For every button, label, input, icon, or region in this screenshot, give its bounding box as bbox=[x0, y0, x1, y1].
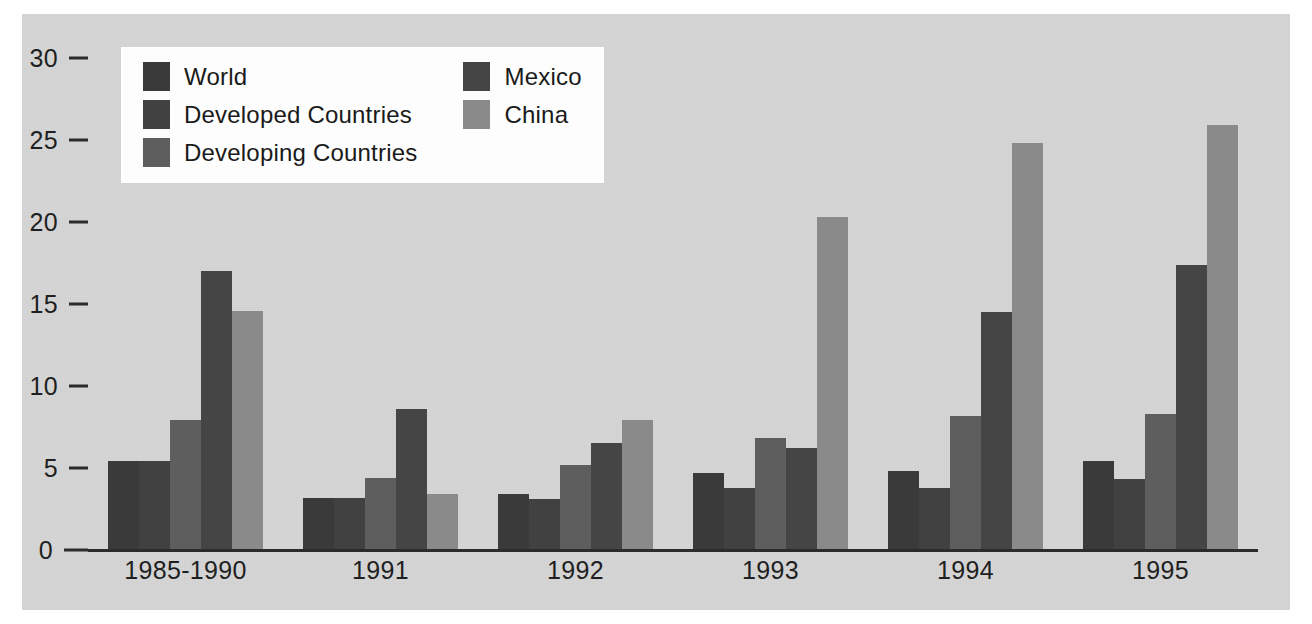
legend-item[interactable]: Mexico bbox=[463, 62, 581, 91]
legend-item[interactable]: Developed Countries bbox=[143, 100, 417, 129]
bar-group bbox=[673, 58, 868, 550]
bar-group-bars bbox=[1083, 58, 1238, 550]
legend-column: WorldDeveloped CountriesDeveloping Count… bbox=[143, 62, 417, 167]
bar[interactable] bbox=[427, 494, 458, 550]
bar-group bbox=[1063, 58, 1258, 550]
y-axis-tick-mark bbox=[69, 139, 88, 142]
legend-item[interactable]: China bbox=[463, 100, 581, 129]
y-axis-tick: 30 bbox=[16, 44, 88, 73]
bar[interactable] bbox=[1083, 461, 1114, 550]
bar[interactable] bbox=[693, 473, 724, 550]
y-axis-tick-mark bbox=[69, 57, 88, 60]
bar[interactable] bbox=[108, 461, 139, 550]
x-axis-category-label: 1993 bbox=[673, 556, 868, 585]
bar[interactable] bbox=[560, 465, 591, 550]
legend-swatch-icon bbox=[463, 62, 490, 91]
bar[interactable] bbox=[1176, 265, 1207, 550]
legend-label: Developing Countries bbox=[184, 139, 417, 167]
legend-item[interactable]: Developing Countries bbox=[143, 138, 417, 167]
x-axis-category-label: 1985-1990 bbox=[88, 556, 283, 585]
bar[interactable] bbox=[232, 311, 263, 550]
legend-swatch-icon bbox=[463, 100, 490, 129]
bar[interactable] bbox=[622, 420, 653, 550]
bar[interactable] bbox=[1145, 414, 1176, 550]
bar[interactable] bbox=[591, 443, 622, 550]
x-axis-category-label: 1992 bbox=[478, 556, 673, 585]
legend-label: China bbox=[504, 101, 568, 129]
legend-column: MexicoChina bbox=[463, 62, 581, 167]
bar[interactable] bbox=[170, 420, 201, 550]
legend-swatch-icon bbox=[143, 100, 170, 129]
y-axis-tick-mark bbox=[69, 467, 88, 470]
x-axis-line bbox=[88, 549, 1258, 552]
y-axis-tick: 20 bbox=[16, 208, 88, 237]
bar[interactable] bbox=[786, 448, 817, 550]
y-axis-tick-mark bbox=[69, 303, 88, 306]
y-axis-tick: 10 bbox=[16, 372, 88, 401]
legend-swatch-icon bbox=[143, 138, 170, 167]
x-axis-category-label: 1994 bbox=[868, 556, 1063, 585]
legend-item[interactable]: World bbox=[143, 62, 417, 91]
bar[interactable] bbox=[919, 488, 950, 550]
x-axis-labels: 1985-199019911992199319941995 bbox=[88, 556, 1258, 585]
legend-swatch-icon bbox=[143, 62, 170, 91]
x-axis-category-label: 1995 bbox=[1063, 556, 1258, 585]
y-axis-tick: 15 bbox=[16, 290, 88, 319]
bar[interactable] bbox=[529, 499, 560, 550]
bar-group-bars bbox=[888, 58, 1043, 550]
bar[interactable] bbox=[755, 438, 786, 550]
y-axis-tick-label: 0 bbox=[11, 536, 53, 565]
bar[interactable] bbox=[1012, 143, 1043, 550]
chart-figure: 051015202530 1985-1990199119921993199419… bbox=[0, 0, 1312, 624]
bar[interactable] bbox=[1114, 479, 1145, 550]
legend-label: Developed Countries bbox=[184, 101, 412, 129]
y-axis-tick-label: 5 bbox=[16, 454, 58, 483]
bar-group-bars bbox=[693, 58, 848, 550]
y-axis-tick-label: 30 bbox=[16, 44, 58, 73]
y-axis-tick-label: 10 bbox=[16, 372, 58, 401]
bar[interactable] bbox=[981, 312, 1012, 550]
y-axis-tick-mark bbox=[69, 221, 88, 224]
bar[interactable] bbox=[950, 416, 981, 550]
bar[interactable] bbox=[365, 478, 396, 550]
y-axis-tick-label: 15 bbox=[16, 290, 58, 319]
bar[interactable] bbox=[396, 409, 427, 550]
y-axis-tick-mark bbox=[69, 385, 88, 388]
y-axis-tick-label: 20 bbox=[16, 208, 58, 237]
bar[interactable] bbox=[817, 217, 848, 550]
bar[interactable] bbox=[1207, 125, 1238, 550]
bar[interactable] bbox=[498, 494, 529, 550]
y-axis-tick: 5 bbox=[16, 454, 88, 483]
y-axis-tick-mark bbox=[64, 549, 88, 552]
legend-label: World bbox=[184, 63, 247, 91]
y-axis-tick: 25 bbox=[16, 126, 88, 155]
bar[interactable] bbox=[334, 498, 365, 550]
bar[interactable] bbox=[201, 271, 232, 550]
bar[interactable] bbox=[139, 461, 170, 550]
legend-label: Mexico bbox=[504, 63, 581, 91]
chart-legend: WorldDeveloped CountriesDeveloping Count… bbox=[121, 47, 604, 183]
bar-group bbox=[868, 58, 1063, 550]
bar[interactable] bbox=[724, 488, 755, 550]
bar[interactable] bbox=[888, 471, 919, 550]
y-axis-tick-label: 25 bbox=[16, 126, 58, 155]
bar[interactable] bbox=[303, 498, 334, 550]
x-axis-category-label: 1991 bbox=[283, 556, 478, 585]
y-axis-tick: 0 bbox=[11, 536, 88, 565]
